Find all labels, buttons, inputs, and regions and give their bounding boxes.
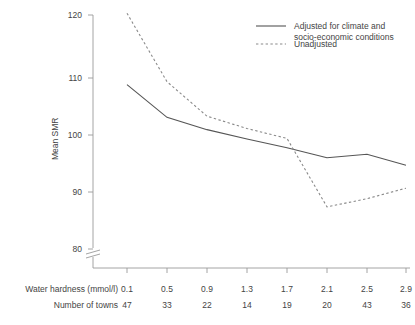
series-line-unadjusted bbox=[127, 13, 406, 207]
cell-water-hardness: 2.5 bbox=[354, 284, 380, 294]
y-axis-break-icon bbox=[86, 250, 100, 258]
chart-figure: 120 110 100 90 80 Mean SMR Adjusted for … bbox=[0, 0, 415, 325]
cell-water-hardness: 2.1 bbox=[314, 284, 340, 294]
cell-number-of-towns: 22 bbox=[194, 300, 220, 310]
legend-entry-unadjusted: Unadjusted bbox=[294, 39, 337, 50]
chart-plot-area bbox=[0, 0, 415, 325]
row-label-number-of-towns: Number of towns bbox=[8, 300, 118, 310]
cell-water-hardness: 0.9 bbox=[194, 284, 220, 294]
cell-water-hardness: 2.9 bbox=[393, 284, 415, 294]
y-tick-label-100: 100 bbox=[60, 131, 82, 140]
cell-number-of-towns: 20 bbox=[314, 300, 340, 310]
cell-water-hardness: 1.7 bbox=[274, 284, 300, 294]
cell-water-hardness: 0.1 bbox=[114, 284, 140, 294]
x-tick-marks bbox=[127, 268, 406, 273]
row-label-water-hardness: Water hardness (mmol/l) bbox=[8, 284, 118, 294]
y-tick-label-90: 90 bbox=[60, 188, 82, 197]
y-axis-title: Mean SMR bbox=[50, 117, 60, 160]
y-tick-label-120: 120 bbox=[60, 11, 82, 20]
y-tick-marks bbox=[88, 15, 93, 249]
cell-number-of-towns: 47 bbox=[114, 300, 140, 310]
cell-water-hardness: 0.5 bbox=[154, 284, 180, 294]
cell-number-of-towns: 19 bbox=[274, 300, 300, 310]
y-tick-label-110: 110 bbox=[60, 74, 82, 83]
legend-label-unadjusted: Unadjusted bbox=[294, 39, 337, 49]
cell-number-of-towns: 14 bbox=[234, 300, 260, 310]
cell-number-of-towns: 33 bbox=[154, 300, 180, 310]
cell-number-of-towns: 36 bbox=[393, 300, 415, 310]
y-tick-label-80: 80 bbox=[60, 245, 82, 254]
cell-water-hardness: 1.3 bbox=[234, 284, 260, 294]
cell-number-of-towns: 43 bbox=[354, 300, 380, 310]
series-line-adjusted bbox=[127, 85, 406, 166]
legend-label-adjusted-line1: Adjusted for climate and bbox=[294, 21, 385, 31]
